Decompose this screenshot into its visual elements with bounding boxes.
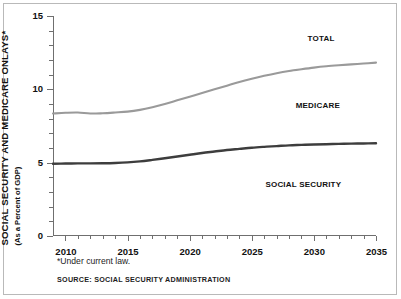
x-tick-2017 bbox=[152, 236, 153, 239]
y-tick-label-15: 15 bbox=[32, 10, 43, 21]
x-tick-2023 bbox=[227, 236, 228, 239]
source-text: SOURCE: SOCIAL SECURITY ADMINISTRATION bbox=[57, 275, 230, 284]
x-tick-2022 bbox=[215, 236, 216, 239]
x-tick-2016 bbox=[140, 236, 141, 239]
series-label-total: TOTAL bbox=[308, 34, 335, 43]
x-tick-2025: 2025 bbox=[252, 236, 253, 241]
x-tick-2020: 2020 bbox=[190, 236, 191, 241]
y-axis-title-sub: (As a Percent of GDP) bbox=[14, 167, 22, 246]
y-tick-label-10: 10 bbox=[32, 83, 43, 94]
series-lines bbox=[53, 16, 376, 236]
x-tick-label-2020: 2020 bbox=[180, 246, 201, 257]
x-tick-2026 bbox=[264, 236, 265, 239]
y-axis-title: SOCIAL SECURITY AND MEDICARE ONLAYS* (As… bbox=[10, 14, 36, 246]
x-tick-2028 bbox=[289, 236, 290, 239]
x-tick-2021 bbox=[202, 236, 203, 239]
x-tick-2019 bbox=[177, 236, 178, 239]
x-tick-2031 bbox=[326, 236, 327, 239]
x-tick-2013 bbox=[103, 236, 104, 239]
series-label-social-security: SOCIAL SECURITY bbox=[265, 180, 341, 189]
y-tick-0: 0 bbox=[47, 236, 53, 237]
plot-area: 051015 201020152020202520302035 TOTALSOC… bbox=[53, 16, 376, 236]
line-social-security bbox=[53, 143, 376, 163]
x-tick-2035: 2035 bbox=[376, 236, 377, 241]
x-tick-2030: 2030 bbox=[314, 236, 315, 241]
series-label-medicare: MEDICARE bbox=[296, 101, 340, 110]
x-tick-2015: 2015 bbox=[128, 236, 129, 241]
x-tick-2034 bbox=[364, 236, 365, 239]
x-tick-2033 bbox=[351, 236, 352, 239]
x-tick-label-2025: 2025 bbox=[242, 246, 263, 257]
x-tick-2024 bbox=[239, 236, 240, 239]
y-axis-title-main: SOCIAL SECURITY AND MEDICARE ONLAYS* bbox=[0, 31, 10, 246]
x-tick-2010: 2010 bbox=[65, 236, 66, 241]
x-tick-label-2030: 2030 bbox=[304, 246, 325, 257]
x-tick-2032 bbox=[339, 236, 340, 239]
footnote-text: *Under current law. bbox=[57, 256, 130, 266]
x-tick-2012 bbox=[90, 236, 91, 239]
x-tick-2014 bbox=[115, 236, 116, 239]
x-tick-2027 bbox=[277, 236, 278, 239]
y-tick-label-5: 5 bbox=[38, 157, 43, 168]
x-tick-2011 bbox=[78, 236, 79, 239]
y-tick-label-0: 0 bbox=[38, 230, 43, 241]
x-tick-label-2035: 2035 bbox=[366, 246, 387, 257]
chart-figure: SOCIAL SECURITY AND MEDICARE ONLAYS* (As… bbox=[0, 0, 401, 299]
x-tick-2029 bbox=[301, 236, 302, 239]
x-tick-2018 bbox=[165, 236, 166, 239]
